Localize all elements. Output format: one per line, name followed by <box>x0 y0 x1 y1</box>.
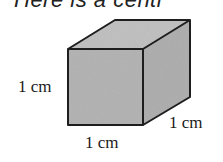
width-label: 1 cm <box>85 133 119 152</box>
depth-label: 1 cm <box>169 113 203 132</box>
cube-front-face <box>68 49 143 125</box>
height-label: 1 cm <box>18 77 52 96</box>
cube-diagram: 1 cm 1 cm 1 cm <box>0 0 223 162</box>
